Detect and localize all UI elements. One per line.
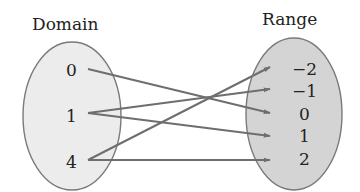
domain-title: Domain (32, 14, 99, 34)
domain-value-1: 1 (66, 106, 77, 126)
domain-value-4: 4 (66, 152, 77, 172)
range-value-0: 0 (299, 104, 310, 124)
domain-value-0: 0 (66, 60, 77, 80)
range-value-1: 1 (299, 126, 310, 146)
range-value-neg2: −2 (292, 59, 317, 79)
range-title: Range (262, 9, 317, 29)
range-value-2: 2 (299, 149, 310, 169)
mapping-diagram: Domain Range 0 1 4 −2 −1 0 1 2 (0, 0, 360, 192)
range-value-neg1: −1 (292, 81, 317, 101)
